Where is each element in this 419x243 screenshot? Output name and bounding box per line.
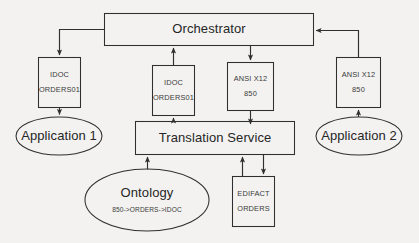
edge-orchestrator-to-idoc-left — [60, 30, 105, 56]
translation-service-shape — [136, 122, 295, 155]
diagram-canvas: Orchestrator IDOC ORDERS01 IDOC ORDERS01… — [0, 0, 419, 243]
application-2-shape — [316, 117, 402, 155]
orchestrator-shape — [105, 14, 314, 46]
idoc-left-shape — [39, 58, 81, 108]
idoc-middle-shape — [153, 66, 195, 116]
diagram-connectors — [0, 0, 419, 243]
edge-ansi-right-to-orchestrator — [316, 31, 359, 58]
edifact-shape — [233, 177, 275, 227]
ansi-middle-shape — [228, 63, 274, 111]
ontology-shape — [85, 169, 209, 231]
ansi-right-shape — [337, 58, 381, 108]
application-1-shape — [16, 117, 102, 155]
